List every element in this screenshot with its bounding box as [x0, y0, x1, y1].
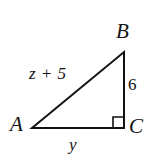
side-label-horizontal-leg: y	[69, 136, 77, 153]
right-angle-marker-icon	[113, 117, 124, 128]
vertex-label-b: B	[116, 21, 129, 42]
geometry-figure: B A C z + 5 6 y	[0, 0, 156, 162]
side-label-hypotenuse: z + 5	[29, 65, 67, 82]
vertex-label-c: C	[129, 116, 143, 137]
vertex-label-a: A	[10, 114, 23, 135]
side-label-vertical-leg: 6	[128, 76, 137, 93]
